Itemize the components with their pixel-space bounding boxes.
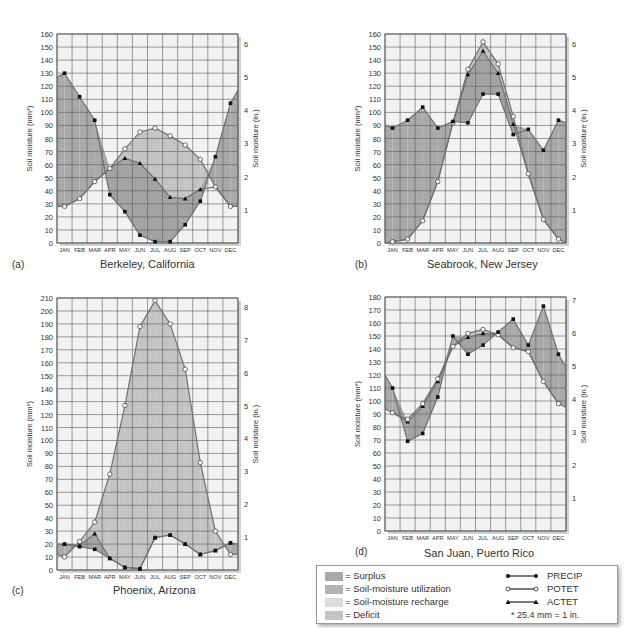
precip-marker [436, 395, 440, 399]
y-right-tick-label: 2 [572, 461, 576, 470]
x-tick-label: DEC [553, 535, 565, 541]
y-right-tick-label: 5 [572, 362, 576, 371]
precip-marker [421, 432, 425, 436]
y-tick-label: 160 [368, 319, 381, 328]
precip-marker [496, 330, 500, 334]
y-tick-label: 170 [368, 306, 381, 315]
y-tick-label: 60 [373, 449, 381, 458]
legend-item-deficit: = Deficit [325, 609, 380, 621]
x-tick-label: JUL [478, 535, 488, 541]
precip-marker [557, 352, 561, 356]
x-tick-label: NOV [537, 535, 549, 541]
y-right-tick-label: 7 [572, 296, 576, 305]
swatch-recharge [325, 598, 343, 607]
y-tick-label: 140 [368, 345, 381, 354]
x-tick-label: AUG [492, 535, 504, 541]
swatch-surplus [325, 572, 343, 581]
x-tick-label: OCT [522, 535, 534, 541]
y-axis-label: Soil moisture (mm*) [353, 381, 362, 447]
legend-line-potet: POTET [505, 583, 579, 595]
chart-title: San Juan, Puerto Rico [424, 547, 534, 559]
legend: = Surplus = Soil-moisture utilization = … [316, 565, 618, 624]
swatch-utilization [325, 585, 343, 594]
potet-marker [541, 379, 545, 383]
swatch-deficit [325, 611, 343, 620]
y-tick-label: 90 [373, 410, 381, 419]
potet-marker [405, 417, 409, 421]
precip-marker [542, 304, 546, 308]
legend-line-actet: ACTET [505, 596, 578, 608]
y-right-tick-label: 4 [572, 395, 576, 404]
potet-marker [451, 344, 455, 348]
legend-item-utilization: = Soil-moisture utilization [325, 583, 451, 595]
chart-svg: 0102030405060708090100110120130140150160… [0, 0, 629, 628]
potet-marker [421, 401, 425, 405]
y-tick-label: 40 [373, 475, 381, 484]
unit-conversion-note: * 25.4 mm = 1 in. [511, 610, 579, 620]
potet-marker [511, 346, 515, 350]
precip-marker [451, 334, 455, 338]
legend-label: POTET [547, 583, 579, 594]
y-tick-label: 120 [368, 371, 381, 380]
x-tick-label: SEP [508, 535, 519, 541]
y-right-tick-label: 6 [572, 329, 576, 338]
y-tick-label: 180 [368, 293, 381, 302]
precip-marker [406, 440, 410, 444]
y-tick-label: 130 [368, 358, 381, 367]
x-tick-label: MAY [447, 535, 459, 541]
precip-marker [481, 343, 485, 347]
legend-item-surplus: = Surplus [325, 570, 385, 582]
precip-marker [511, 317, 515, 321]
y-tick-label: 10 [373, 514, 381, 523]
legend-line-precip: PRECIP [505, 570, 582, 582]
y-tick-label: 20 [373, 501, 381, 510]
actet-line-icon [505, 598, 539, 606]
legend-item-recharge: = Soil-moisture recharge [325, 596, 449, 608]
legend-label: ACTET [547, 596, 578, 607]
x-tick-label: FEB [402, 535, 413, 541]
legend-label: = Surplus [345, 570, 385, 581]
legend-label: = Deficit [345, 609, 380, 620]
y-tick-label: 110 [369, 384, 381, 393]
x-tick-label: JUN [463, 535, 474, 541]
y-tick-label: 0 [377, 527, 381, 536]
precip-line-icon [505, 572, 539, 580]
x-tick-label: APR [432, 535, 444, 541]
panel-label: (d) [355, 546, 367, 557]
potet-marker [481, 327, 485, 331]
y-tick-label: 50 [373, 462, 381, 471]
potet-marker [526, 349, 530, 353]
y-right-tick-label: 1 [572, 494, 576, 503]
y-right-tick-label: 3 [572, 428, 576, 437]
potet-marker [466, 331, 470, 335]
potet-marker [436, 377, 440, 381]
legend-label: = Soil-moisture recharge [345, 596, 449, 607]
legend-label: PRECIP [547, 570, 582, 581]
y-tick-label: 100 [368, 397, 381, 406]
potet-line-icon [505, 585, 539, 593]
x-tick-label: JAN [387, 535, 398, 541]
y-right-axis-label: Soil moisture (in.) [579, 384, 588, 443]
precip-marker [526, 343, 530, 347]
precip-marker [466, 352, 470, 356]
y-tick-label: 80 [373, 423, 381, 432]
x-tick-label: MAR [416, 535, 428, 541]
y-tick-label: 30 [373, 488, 381, 497]
potet-marker [390, 411, 394, 415]
potet-marker [556, 401, 560, 405]
precip-marker [391, 386, 395, 390]
y-tick-label: 150 [368, 332, 381, 341]
legend-label: = Soil-moisture utilization [345, 583, 451, 594]
y-tick-label: 70 [373, 436, 381, 445]
